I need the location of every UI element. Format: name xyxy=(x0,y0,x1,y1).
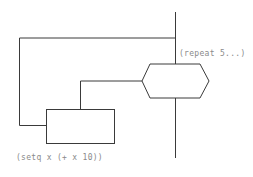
repeat-to-setq-connector xyxy=(81,81,143,109)
loop-back-connector xyxy=(20,38,176,126)
repeat-node-hexagon xyxy=(142,64,209,98)
flow-diagram: (repeat 5...) (setq x (+ x 10)) xyxy=(0,0,253,177)
repeat-label: (repeat 5...) xyxy=(179,49,246,58)
setq-label: (setq x (+ x 10)) xyxy=(16,153,103,162)
setq-node-rectangle xyxy=(47,110,115,144)
